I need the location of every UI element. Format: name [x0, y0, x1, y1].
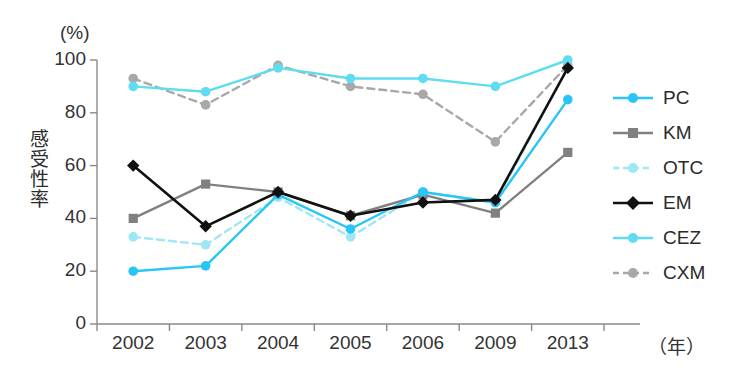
- data-point-marker: [128, 232, 138, 242]
- x-axis-tick-label: 2013: [530, 332, 606, 354]
- data-point-marker: [129, 214, 138, 223]
- legend-item-label: KM: [654, 122, 692, 144]
- x-axis-tick-label: 2002: [95, 332, 171, 354]
- x-axis-unit-label: （年）: [648, 332, 705, 359]
- data-point-marker: [273, 63, 283, 73]
- legend-swatch-icon: [612, 124, 654, 142]
- series-cxm: [128, 60, 572, 146]
- x-axis-tick-label: 2009: [457, 332, 533, 354]
- legend-item-label: EM: [654, 192, 692, 214]
- data-point-marker: [128, 82, 138, 92]
- y-axis-tick-label: 0: [40, 312, 86, 334]
- legend-item-label: PC: [654, 87, 689, 109]
- data-point-marker: [201, 240, 211, 250]
- data-point-marker: [201, 87, 211, 97]
- data-point-marker: [128, 266, 138, 276]
- y-axis-tick-label: 40: [40, 206, 86, 228]
- legend-item-cez[interactable]: CEZ: [612, 220, 734, 255]
- series-pc: [128, 95, 572, 276]
- data-point-marker: [418, 74, 428, 84]
- legend-swatch-icon: [612, 159, 654, 177]
- data-point-marker: [563, 95, 573, 105]
- chart-legend: PCKMOTCEMCEZCXM: [612, 80, 734, 290]
- data-point-marker: [201, 179, 210, 188]
- legend-item-km[interactable]: KM: [612, 115, 734, 150]
- data-point-marker: [418, 187, 428, 197]
- data-point-marker: [491, 82, 501, 92]
- legend-item-label: CXM: [654, 262, 705, 284]
- y-axis-tick-label: 80: [40, 101, 86, 123]
- data-point-marker: [563, 148, 572, 157]
- x-axis-tick-label: 2006: [385, 332, 461, 354]
- chart-figure: (%) 感 受 性 率 020406080100 200220032004200…: [0, 0, 737, 384]
- x-axis-tick-label: 2004: [240, 332, 316, 354]
- data-point-marker: [491, 137, 501, 147]
- data-point-marker: [491, 209, 500, 218]
- legend-swatch-icon: [612, 264, 654, 282]
- x-axis-tick-label: 2003: [168, 332, 244, 354]
- data-point-marker: [418, 90, 428, 100]
- data-point-marker: [346, 224, 356, 234]
- legend-item-label: OTC: [654, 157, 703, 179]
- y-axis-tick-label: 100: [40, 48, 86, 70]
- legend-swatch-icon: [612, 89, 654, 107]
- y-axis-tick-label: 20: [40, 259, 86, 281]
- data-point-marker: [201, 100, 211, 110]
- legend-item-otc[interactable]: OTC: [612, 150, 734, 185]
- legend-item-label: CEZ: [654, 227, 701, 249]
- data-point-marker: [346, 74, 356, 84]
- legend-item-pc[interactable]: PC: [612, 80, 734, 115]
- legend-item-em[interactable]: EM: [612, 185, 734, 220]
- legend-item-cxm[interactable]: CXM: [612, 255, 734, 290]
- y-axis-tick-label: 60: [40, 154, 86, 176]
- data-point-marker: [201, 261, 211, 271]
- x-axis-tick-label: 2005: [313, 332, 389, 354]
- legend-swatch-icon: [612, 194, 654, 212]
- legend-swatch-icon: [612, 229, 654, 247]
